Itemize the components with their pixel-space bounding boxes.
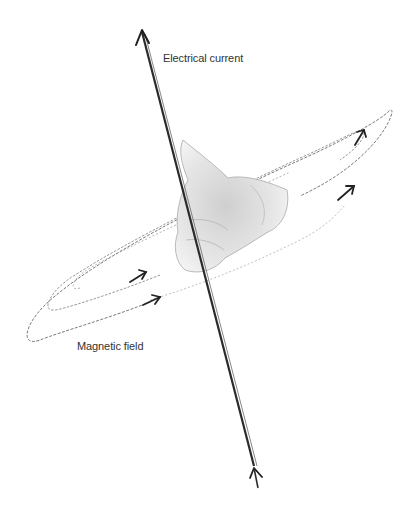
diagram-drawing xyxy=(0,0,414,523)
field-arrow-right-upper xyxy=(355,130,366,145)
field-arrow-right-lower xyxy=(338,186,354,200)
field-arrow-left-lower xyxy=(143,295,160,305)
label-electrical-current: Electrical current xyxy=(163,52,243,64)
hand-icon xyxy=(175,140,287,272)
field-arrow-left-upper xyxy=(130,270,146,282)
right-hand-rule-diagram: Electrical current Magnetic field xyxy=(0,0,414,523)
label-magnetic-field: Magnetic field xyxy=(77,340,143,352)
